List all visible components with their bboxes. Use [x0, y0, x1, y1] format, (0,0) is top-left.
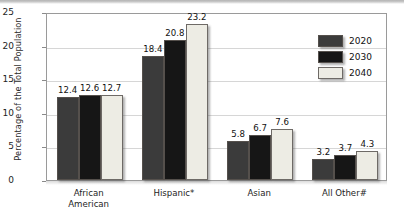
bar[interactable]: 6.7: [249, 135, 271, 180]
bar-group: 12.412.612.7: [57, 14, 123, 180]
bar[interactable]: 23.2: [186, 24, 208, 180]
x-axis-category-line: American: [46, 199, 131, 210]
x-axis-category-label: All Other#: [302, 188, 387, 199]
x-axis-category-line: Hispanic*: [131, 188, 216, 199]
bar-value-label: 5.8: [231, 129, 245, 139]
bar[interactable]: 3.2: [312, 159, 334, 181]
bar-value-label: 12.6: [80, 83, 99, 93]
bar-group: 5.86.77.6: [227, 14, 293, 180]
y-axis-tick-label: 15: [0, 74, 14, 84]
bar-value-label: 12.7: [102, 83, 121, 93]
bar[interactable]: 5.8: [227, 141, 249, 180]
bar-value-label: 6.7: [253, 123, 267, 133]
bar[interactable]: 4.3: [356, 151, 378, 180]
bar-value-label: 3.2: [317, 147, 331, 157]
bar-value-label: 23.2: [187, 12, 206, 22]
y-axis-tick-label: 5: [0, 141, 14, 151]
bar-value-label: 3.7: [339, 143, 353, 153]
bar-value-label: 18.4: [143, 44, 162, 54]
y-axis-tick-label: 20: [0, 41, 14, 51]
bar-group-bars: 12.412.612.7: [57, 14, 123, 180]
bar-value-label: 7.6: [275, 117, 289, 127]
legend-label: 2040: [349, 68, 372, 78]
x-axis-category-line: African: [46, 188, 131, 199]
bar[interactable]: 3.7: [334, 155, 356, 180]
x-axis-category-label: Hispanic*: [131, 188, 216, 199]
bar[interactable]: 12.4: [57, 97, 79, 180]
legend-swatch: [318, 51, 343, 63]
bar-value-label: 20.8: [165, 28, 184, 38]
legend-item[interactable]: 2030: [318, 49, 372, 64]
bar-chart: Percentage of the Total Population 05101…: [0, 0, 404, 220]
y-axis-title: Percentage of the Total Population: [13, 0, 23, 189]
bar-group-bars: 5.86.77.6: [227, 14, 293, 180]
bar-value-label: 4.3: [361, 139, 375, 149]
bar-value-label: 12.4: [58, 85, 77, 95]
legend-label: 2030: [349, 52, 372, 62]
y-axis-tick-label: 25: [0, 7, 14, 17]
bar[interactable]: 18.4: [142, 56, 164, 180]
y-axis-tick-label: 10: [0, 108, 14, 118]
x-axis-category-label: AfricanAmerican: [46, 188, 131, 210]
legend-swatch: [318, 35, 343, 47]
legend-item[interactable]: 2020: [318, 33, 372, 48]
bar[interactable]: 7.6: [271, 129, 293, 180]
bar[interactable]: 12.7: [101, 95, 123, 180]
x-axis-category-line: All Other#: [302, 188, 387, 199]
x-axis-category-line: Asian: [217, 188, 302, 199]
baseline-shadow: [46, 181, 387, 185]
legend-swatch: [318, 67, 343, 79]
bar[interactable]: 20.8: [164, 40, 186, 180]
legend-label: 2020: [349, 36, 372, 46]
bar[interactable]: 12.6: [79, 95, 101, 180]
chart-legend: 202020302040: [318, 33, 372, 81]
bar-group-bars: 18.420.823.2: [142, 14, 208, 180]
y-axis-tick-label: 0: [0, 175, 14, 185]
bar-group: 18.420.823.2: [142, 14, 208, 180]
legend-item[interactable]: 2040: [318, 65, 372, 80]
x-axis-category-label: Asian: [217, 188, 302, 199]
